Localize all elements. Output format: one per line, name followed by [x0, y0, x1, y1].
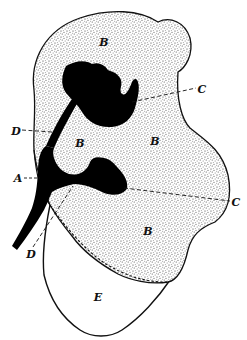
label-a: A [14, 173, 23, 184]
label-b-lower: B [143, 226, 152, 237]
label-d-bottom: D [26, 249, 36, 260]
label-b-mid-right: B [150, 136, 159, 147]
label-c-bottom: C [232, 197, 241, 208]
label-c-top: C [198, 84, 207, 95]
label-b-mid-left: B [75, 138, 84, 149]
label-b-top: B [99, 37, 108, 48]
label-e: E [94, 292, 102, 303]
diagram-figure: B C D B B A C B D E [0, 0, 247, 340]
label-d-top: D [11, 126, 21, 137]
diagram-svg [0, 0, 247, 340]
